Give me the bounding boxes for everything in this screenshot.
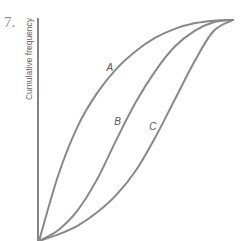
curve-label-a: A bbox=[106, 62, 114, 73]
curves-group bbox=[39, 20, 233, 241]
curve-b bbox=[39, 20, 233, 241]
curve-label-c: C bbox=[149, 121, 157, 132]
curve-c bbox=[39, 20, 233, 241]
cumulative-frequency-chart: ABC bbox=[0, 0, 250, 241]
curve-a bbox=[39, 20, 233, 241]
curve-label-b: B bbox=[114, 116, 121, 127]
